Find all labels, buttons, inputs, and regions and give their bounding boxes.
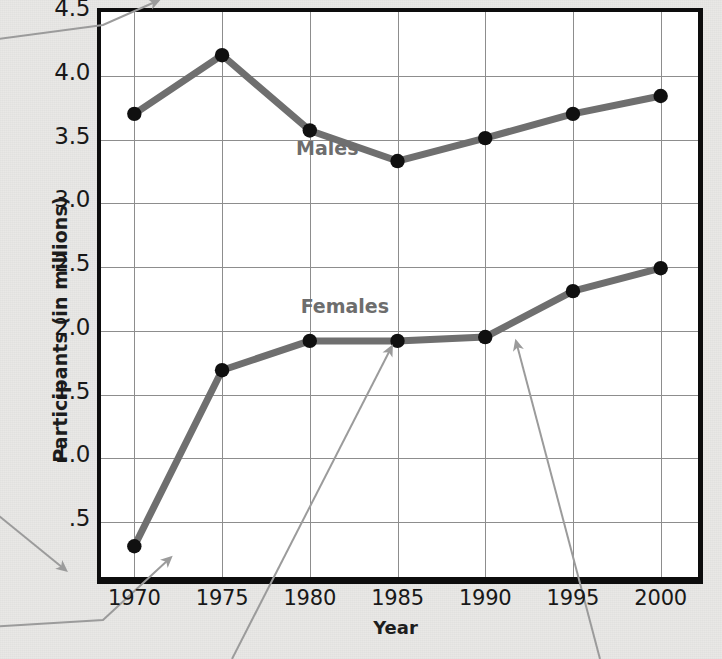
data-point-marker bbox=[390, 334, 404, 348]
x-tick-label: 1995 bbox=[528, 586, 618, 610]
data-point-marker bbox=[215, 363, 229, 377]
series-line bbox=[134, 268, 660, 546]
data-point-marker bbox=[653, 89, 667, 103]
x-tick-label: 1980 bbox=[265, 586, 355, 610]
data-point-marker bbox=[303, 334, 317, 348]
data-point-marker bbox=[478, 330, 492, 344]
series-line bbox=[134, 55, 660, 161]
x-tick-label: 2000 bbox=[616, 586, 706, 610]
x-tick-label: 1975 bbox=[177, 586, 267, 610]
data-point-marker bbox=[303, 123, 317, 137]
series-label-males: Males bbox=[296, 137, 358, 159]
data-point-marker bbox=[127, 539, 141, 553]
data-point-marker bbox=[566, 107, 580, 121]
x-tick-label: 1985 bbox=[353, 586, 443, 610]
chart-page: Participants (in millions) 4.54.03.53.02… bbox=[0, 0, 722, 659]
x-axis-title: Year bbox=[97, 617, 694, 638]
data-point-marker bbox=[215, 48, 229, 62]
series-males bbox=[127, 48, 668, 168]
series-layer bbox=[0, 0, 722, 659]
data-point-marker bbox=[390, 154, 404, 168]
data-point-marker bbox=[127, 107, 141, 121]
x-tick-label: 1990 bbox=[440, 586, 530, 610]
x-tick-label: 1970 bbox=[89, 586, 179, 610]
data-point-marker bbox=[566, 284, 580, 298]
series-females bbox=[127, 261, 668, 553]
series-label-females: Females bbox=[301, 295, 389, 317]
data-point-marker bbox=[478, 131, 492, 145]
data-point-marker bbox=[653, 261, 667, 275]
